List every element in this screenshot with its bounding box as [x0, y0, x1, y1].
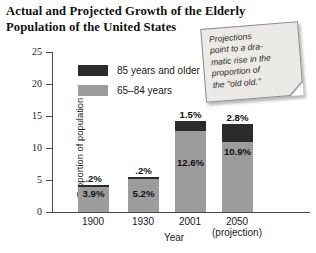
bar-segment-85-plus-1930 — [128, 177, 159, 179]
bar-group-1900: 3.9% .2% — [78, 185, 109, 212]
bar-group-2050: 10.9% 2.8% — [222, 124, 253, 212]
x-tick-sublabel-2050: (projection) — [199, 227, 275, 238]
bar-segment-85-plus-2001 — [175, 121, 206, 131]
bar-label-85-plus-2050: 2.8% — [203, 112, 273, 123]
annotation-text: Projections point to a dra- matic rise i… — [209, 28, 299, 92]
annotation-sticky-note: Projections point to a dra- matic rise i… — [200, 21, 304, 102]
bar-segment-65-84-1900: 3.9% — [78, 187, 109, 212]
x-tick-year-2001: 2001 — [179, 216, 201, 227]
annotation-line-5: the "old old." — [212, 76, 261, 90]
bar-segment-65-84-2050: 10.9% — [222, 142, 253, 212]
y-tick-label-25: 25 — [2, 46, 42, 57]
legend-label-65-84: 65–84 years — [117, 85, 172, 96]
bar-group-1930: 5.2% .2% — [128, 177, 159, 212]
legend-swatch-85-plus — [78, 65, 108, 76]
y-tick-label-15: 15 — [2, 110, 42, 121]
x-tick-year-2050: 2050 — [226, 216, 248, 227]
note-fold-corner — [290, 82, 304, 96]
x-tick-label-2050: 2050 (projection) — [199, 216, 275, 238]
legend-item-65-84: 65–84 years — [78, 80, 200, 100]
bar-label-65-84-2001: 12.6% — [175, 157, 206, 168]
x-axis-title: Year — [144, 232, 204, 243]
y-tick-0 — [46, 212, 53, 213]
bar-segment-85-plus-2050 — [222, 124, 253, 142]
x-tick-year-1930: 1930 — [132, 216, 154, 227]
bar-label-65-84-2050: 10.9% — [222, 146, 253, 157]
x-tick-year-1900: 1900 — [82, 216, 104, 227]
bar-label-65-84-1900: 3.9% — [78, 188, 109, 199]
bar-group-2001: 12.6% 1.5% — [175, 121, 206, 212]
legend: 85 years and older 65–84 years — [78, 60, 200, 100]
bar-label-85-plus-1930: .2% — [109, 165, 179, 176]
title-line-1: Actual and Projected Growth of the Elder… — [6, 4, 236, 20]
x-axis-line — [52, 212, 310, 213]
legend-label-85-plus: 85 years and older — [117, 65, 200, 76]
legend-item-85-plus: 85 years and older — [78, 60, 200, 80]
y-tick-label-10: 10 — [2, 142, 42, 153]
chart-figure: Actual and Projected Growth of the Elder… — [0, 0, 316, 253]
bar-segment-65-84-2001: 12.6% — [175, 131, 206, 212]
y-tick-label-5: 5 — [2, 174, 42, 185]
legend-swatch-65-84 — [78, 85, 108, 96]
y-tick-label-20: 20 — [2, 78, 42, 89]
bar-segment-85-plus-1900 — [78, 185, 109, 187]
bar-label-65-84-1930: 5.2% — [128, 188, 159, 199]
bar-segment-65-84-1930: 5.2% — [128, 179, 159, 212]
y-tick-label-0: 0 — [2, 206, 42, 217]
